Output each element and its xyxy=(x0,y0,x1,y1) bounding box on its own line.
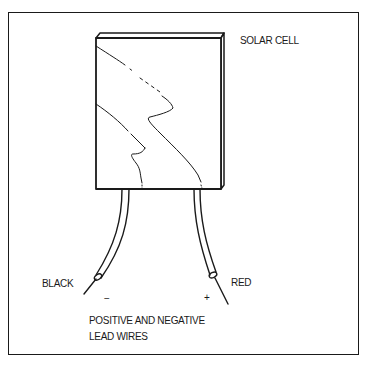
black-wire-label: BLACK xyxy=(42,278,73,289)
red-wire xyxy=(194,189,228,304)
caption-line-1: POSITIVE AND NEGATIVE xyxy=(89,313,205,329)
negative-terminal-sign: − xyxy=(104,293,110,304)
positive-terminal-sign: + xyxy=(204,292,210,303)
black-wire xyxy=(84,189,129,294)
solar-cell-body xyxy=(96,33,224,189)
caption-line-2: LEAD WIRES xyxy=(89,329,148,345)
red-wire-label: RED xyxy=(231,277,251,288)
solar-cell-label: SOLAR CELL xyxy=(240,35,299,46)
